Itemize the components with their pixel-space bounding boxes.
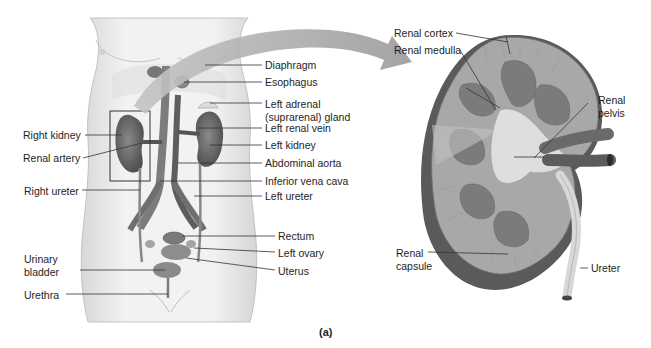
label-renal-artery: Renal artery: [23, 152, 80, 164]
label-esophagus: Esophagus: [265, 76, 318, 88]
label-inferior-vena-cava: Inferior vena cava: [265, 175, 348, 187]
label-urinary-bladder-line1: Urinary: [24, 253, 58, 265]
label-left-ureter: Left ureter: [265, 190, 313, 202]
label-renal-pelvis: Renal pelvis: [598, 94, 625, 119]
label-urethra: Urethra: [24, 289, 59, 301]
label-renal-cortex: Renal cortex: [394, 27, 453, 39]
kidney-cross-section: [421, 35, 613, 300]
label-renal-medulla: Renal medulla: [394, 44, 461, 56]
label-uterus: Uterus: [278, 265, 309, 277]
label-renal-capsule-line1: Renal: [396, 247, 423, 259]
label-left-ovary: Left ovary: [278, 247, 324, 259]
label-right-ureter: Right ureter: [24, 185, 79, 197]
label-diaphragm: Diaphragm: [265, 59, 316, 71]
label-renal-capsule: Renal capsule: [396, 247, 432, 272]
label-urinary-bladder-line2: bladder: [24, 266, 59, 278]
anatomy-illustration: [0, 0, 651, 348]
label-ureter: Ureter: [591, 262, 620, 274]
label-renal-pelvis-line1: Renal: [598, 94, 625, 106]
label-left-adrenal-gland: Left adrenal (suprarenal) gland: [265, 98, 350, 123]
uterus-shape: [161, 244, 191, 260]
label-abdominal-aorta: Abdominal aorta: [265, 157, 341, 169]
label-right-kidney: Right kidney: [23, 129, 81, 141]
label-left-kidney: Left kidney: [265, 139, 316, 151]
figure-caption: (a): [319, 326, 332, 338]
label-renal-pelvis-line2: pelvis: [598, 107, 625, 119]
label-rectum: Rectum: [278, 230, 314, 242]
left-ovary-shape: [186, 240, 196, 248]
label-left-adrenal-line2: (suprarenal) gland: [265, 111, 350, 123]
label-left-adrenal-line1: Left adrenal: [265, 98, 320, 110]
label-renal-capsule-line2: capsule: [396, 260, 432, 272]
label-left-renal-vein: Left renal vein: [265, 122, 331, 134]
rectum-shape: [163, 232, 185, 244]
label-urinary-bladder: Urinary bladder: [24, 253, 59, 278]
